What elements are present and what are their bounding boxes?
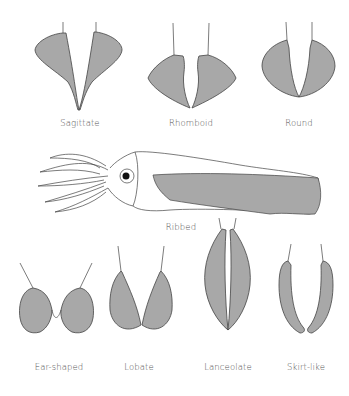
label-sagittate: Sagittate bbox=[40, 118, 120, 128]
lobate-fin-figure bbox=[110, 246, 172, 329]
label-ear-shaped: Ear-shaped bbox=[19, 362, 99, 372]
lanceolate-fin-figure bbox=[205, 218, 251, 330]
skirt-like-fin-figure bbox=[279, 244, 333, 333]
round-fin-figure bbox=[262, 22, 335, 97]
label-round: Round bbox=[259, 118, 339, 128]
label-lobate: Lobate bbox=[99, 362, 179, 372]
label-lanceolate: Lanceolate bbox=[188, 362, 268, 372]
ear-shaped-fin-figure bbox=[20, 263, 94, 333]
label-ribbed: Ribbed bbox=[141, 222, 221, 232]
label-skirt-like: Skirt-like bbox=[266, 362, 346, 372]
rhomboid-fin-figure bbox=[148, 23, 236, 108]
fin-shapes-diagram bbox=[0, 0, 349, 396]
label-rhomboid: Rhomboid bbox=[151, 118, 231, 128]
sagittate-fin-figure bbox=[35, 22, 122, 110]
ribbed-squid-figure bbox=[38, 152, 321, 215]
